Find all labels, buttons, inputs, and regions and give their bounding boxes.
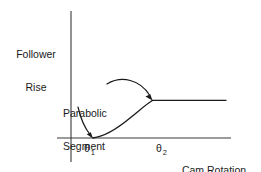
leader-arrow-right (107, 80, 150, 95)
y-axis-label: Follower Rise (8, 27, 64, 104)
theta1-tick-label: θ1 (84, 143, 95, 155)
x-axis-label: Cam Rotation Angle (172, 143, 256, 172)
y-axis-label-line2: Rise (8, 82, 64, 93)
y-axis-label-line1: Follower (8, 49, 64, 60)
theta1-subscript: 1 (90, 148, 95, 157)
theta1-symbol: θ (84, 142, 90, 154)
leader-arrowhead-right (145, 94, 152, 100)
theta2-tick-label: θ2 (156, 143, 167, 155)
annotation-line1: Parabolic (63, 108, 107, 119)
x-axis-label-line1: Cam Rotation (172, 165, 256, 172)
theta2-subscript: 2 (162, 148, 167, 157)
theta2-symbol: θ (156, 142, 162, 154)
